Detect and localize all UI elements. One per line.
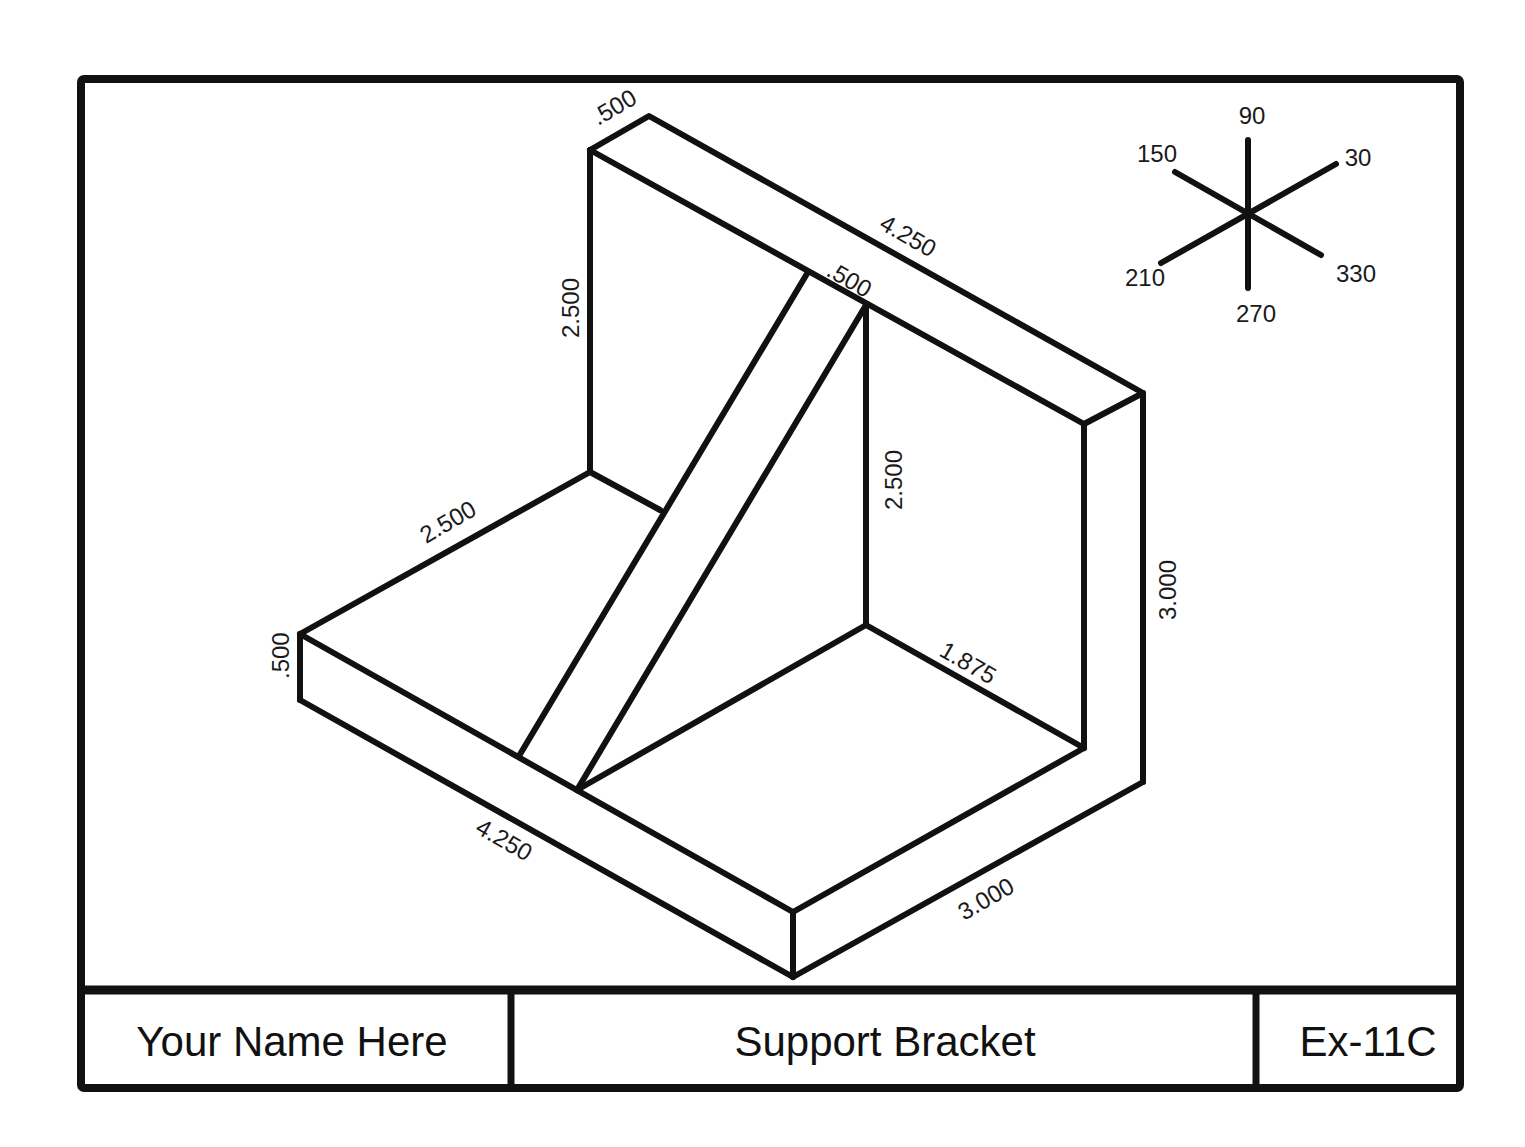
axis-label-270: 270 bbox=[1236, 300, 1276, 327]
dim-base-length: 4.250 bbox=[472, 813, 538, 866]
base-front-bottom-edge bbox=[300, 700, 793, 977]
rib-right-slope-edge bbox=[577, 305, 866, 790]
dimension-labels: .500 4.250 2.500 .500 2.500 2.500 .500 3… bbox=[267, 84, 1181, 926]
sheet-border bbox=[81, 79, 1460, 1088]
axis-label-330: 330 bbox=[1336, 260, 1376, 287]
axis-label-150: 150 bbox=[1137, 140, 1177, 167]
dim-back-height-total: 3.000 bbox=[1154, 560, 1181, 620]
dim-back-top-length: 4.250 bbox=[876, 209, 942, 262]
dim-base-thickness: .500 bbox=[267, 632, 294, 679]
rib-base-edge bbox=[577, 625, 866, 790]
base-left-top-edge bbox=[300, 472, 590, 634]
dim-rib-height: 2.500 bbox=[880, 450, 907, 510]
drawing-sheet: Your Name Here Support Bracket Ex-11C .5… bbox=[0, 0, 1525, 1147]
base-inner-back-edge-left bbox=[590, 472, 660, 510]
axis-label-30: 30 bbox=[1345, 144, 1372, 171]
title-block-title: Support Bracket bbox=[734, 1018, 1035, 1065]
base-right-top-edge bbox=[793, 748, 1084, 912]
axis-label-210: 210 bbox=[1125, 264, 1165, 291]
title-block-name: Your Name Here bbox=[136, 1018, 447, 1065]
base-front-top-edge bbox=[300, 634, 793, 912]
base-inner-back-edge-right bbox=[866, 625, 1084, 748]
axis-label-90: 90 bbox=[1239, 102, 1266, 129]
dim-back-height-left: 2.500 bbox=[557, 278, 584, 338]
isometric-axis-legend: 90 150 30 210 330 270 bbox=[1125, 102, 1376, 327]
title-block-number: Ex-11C bbox=[1300, 1018, 1437, 1065]
